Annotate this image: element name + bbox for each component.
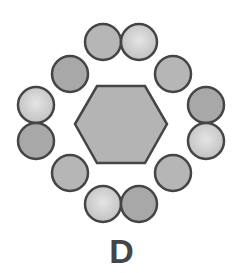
- center-hexagon: [75, 86, 167, 163]
- circle-right-top: [188, 87, 224, 123]
- circle-lower-right: [155, 155, 191, 191]
- circle-upper-left: [52, 56, 88, 92]
- circle-upper-right: [155, 56, 191, 92]
- circle-lower-left: [52, 155, 88, 191]
- circle-right-bottom: [188, 123, 224, 159]
- circle-left-top: [18, 87, 54, 123]
- circle-bottom-left: [85, 186, 121, 222]
- circle-left-bottom: [18, 123, 54, 159]
- circle-bottom-right: [121, 186, 157, 222]
- figure-label: D: [0, 234, 243, 268]
- circle-top-right: [121, 24, 157, 60]
- circle-top-left: [85, 24, 121, 60]
